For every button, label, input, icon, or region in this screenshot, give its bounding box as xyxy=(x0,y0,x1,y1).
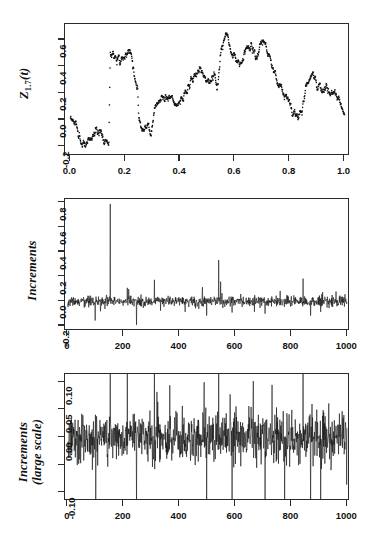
y-tick-label: 0.4 xyxy=(57,71,68,84)
y-tick-mark xyxy=(58,275,64,276)
panel2-y-axis-title-text: Increments xyxy=(25,240,39,300)
x-tick-label: 0 xyxy=(64,510,69,521)
panel-process-path: Z1.7(t) -0.20.00.20.40.6 0.00.20.40.60.8… xyxy=(0,0,369,185)
y-tick-mark xyxy=(58,300,64,301)
y-tick-label: 0.0 xyxy=(57,306,68,319)
x-tick-mark xyxy=(124,155,125,161)
x-tick-label: 0.4 xyxy=(172,165,185,176)
x-tick-label: 0.2 xyxy=(118,165,131,176)
panel1-y-axis-title-text: Z1.7(t) xyxy=(17,68,31,100)
y-tick-mark xyxy=(58,436,64,437)
x-tick-mark xyxy=(178,155,179,161)
x-tick-mark xyxy=(66,330,67,336)
x-tick-mark xyxy=(178,330,179,336)
x-tick-mark xyxy=(288,155,289,161)
x-tick-mark xyxy=(233,155,234,161)
x-tick-mark xyxy=(122,330,123,336)
y-tick-label: 0.00 xyxy=(63,442,74,461)
x-tick-label: 0.0 xyxy=(63,165,76,176)
y-tick-label: 0.6 xyxy=(57,232,68,245)
y-tick-mark xyxy=(58,381,64,382)
x-tick-mark xyxy=(346,500,347,506)
x-tick-label: 0 xyxy=(64,340,69,351)
y-tick-mark xyxy=(58,250,64,251)
panel2-y-axis-title: Increments xyxy=(25,226,40,316)
panel2-plot-box xyxy=(64,198,349,330)
y-tick-label: 0.6 xyxy=(57,45,68,58)
y-tick-label: 0.10 xyxy=(63,387,74,406)
x-tick-label: 1000 xyxy=(336,340,357,351)
x-tick-mark xyxy=(69,155,70,161)
panel1-y-axis-title: Z1.7(t) xyxy=(17,38,34,128)
y-tick-mark xyxy=(58,408,64,409)
panel3-line-layer xyxy=(65,374,349,500)
x-tick-label: 0.6 xyxy=(227,165,240,176)
x-tick-label: 800 xyxy=(282,510,298,521)
x-tick-label: 1.0 xyxy=(337,165,350,176)
x-tick-label: 800 xyxy=(282,340,298,351)
y-tick-label: 0.8 xyxy=(57,207,68,220)
x-tick-mark xyxy=(234,330,235,336)
panel3-y-axis-title-line1: Increments xyxy=(16,400,30,504)
x-tick-label: 600 xyxy=(227,340,243,351)
y-tick-mark xyxy=(58,226,64,227)
x-tick-label: 400 xyxy=(171,340,187,351)
y-tick-mark xyxy=(58,38,64,39)
panel-increments: Increments -0.20.00.20.40.60.8 020040060… xyxy=(0,185,369,368)
x-tick-label: 200 xyxy=(115,510,131,521)
y-tick-label: 0.2 xyxy=(57,281,68,294)
y-tick-label: 0.2 xyxy=(57,98,68,111)
y-tick-mark xyxy=(58,65,64,66)
panel1-scatter-layer xyxy=(65,24,349,155)
y-tick-mark xyxy=(58,118,64,119)
x-tick-label: 600 xyxy=(227,510,243,521)
y-tick-mark xyxy=(58,491,64,492)
y-tick-mark xyxy=(58,92,64,93)
figure-canvas: Z1.7(t) -0.20.00.20.40.6 0.00.20.40.60.8… xyxy=(0,0,369,550)
y-tick-mark xyxy=(58,201,64,202)
x-tick-label: 0.8 xyxy=(282,165,295,176)
y-tick-mark xyxy=(58,145,64,146)
x-tick-mark xyxy=(234,500,235,506)
y-tick-label: 0.0 xyxy=(57,125,68,138)
y-tick-mark xyxy=(58,324,64,325)
x-tick-label: 400 xyxy=(171,510,187,521)
x-tick-mark xyxy=(178,500,179,506)
x-tick-mark xyxy=(346,330,347,336)
x-tick-mark xyxy=(290,500,291,506)
panel-increments-large-scale: Increments (large scale) 0.100.050.00-0.… xyxy=(0,368,369,550)
panel3-plot-box xyxy=(64,373,349,500)
x-tick-mark xyxy=(343,155,344,161)
x-tick-label: 1000 xyxy=(336,510,357,521)
panel1-plot-box xyxy=(64,23,349,155)
x-tick-mark xyxy=(290,330,291,336)
panel2-line-layer xyxy=(65,199,349,330)
x-tick-mark xyxy=(122,500,123,506)
panel3-y-axis-title: Increments (large scale) xyxy=(16,400,44,504)
x-tick-mark xyxy=(66,500,67,506)
y-tick-label: 0.4 xyxy=(57,257,68,270)
x-tick-label: 200 xyxy=(115,340,131,351)
panel3-y-axis-title-line2: (large scale) xyxy=(30,400,44,504)
y-tick-mark xyxy=(58,464,64,465)
y-tick-label: 0.05 xyxy=(63,414,74,433)
